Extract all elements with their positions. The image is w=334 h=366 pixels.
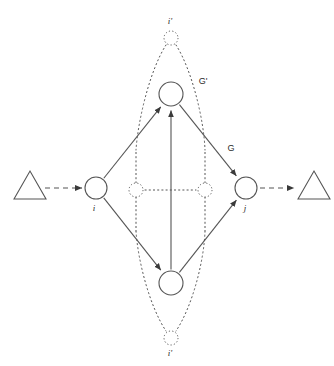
top-node	[159, 82, 183, 106]
output-triangle	[298, 171, 330, 199]
center-right-node	[198, 183, 212, 197]
inner-graph-label: G'	[199, 76, 208, 86]
input-triangle	[14, 171, 46, 199]
bottom-node	[159, 271, 183, 295]
edge-left-to-top	[104, 107, 161, 178]
center-left-node	[129, 183, 143, 197]
outer-graph-label: G	[227, 143, 234, 153]
left-node	[85, 177, 107, 199]
labels-layer: iji'i'G'G	[93, 16, 247, 358]
top-outer-node	[164, 31, 178, 45]
solid-edges-layer	[104, 105, 237, 273]
diagram-canvas: iji'i'G'G	[0, 0, 334, 366]
bottom-outer-node	[164, 331, 178, 345]
left-node-label: i	[93, 203, 96, 213]
triangles-layer	[14, 171, 330, 199]
edge-left-to-bottom	[104, 198, 161, 270]
bottom-outer-node-label: i'	[168, 348, 174, 358]
right-node-label: j	[243, 203, 247, 213]
edge-bottom-to-right	[179, 200, 236, 272]
top-outer-node-label: i'	[168, 16, 174, 26]
right-node	[235, 177, 257, 199]
diagram-svg: iji'i'G'G	[0, 0, 334, 366]
edge-top-to-right	[179, 105, 236, 176]
